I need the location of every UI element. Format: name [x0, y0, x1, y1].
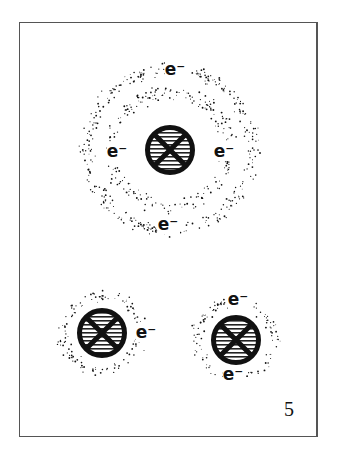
- nucleus: [214, 318, 259, 363]
- atom-diagram: e⁻e⁻e⁻e⁻e⁻e⁻e⁻: [0, 0, 337, 467]
- electron-label: e⁻: [165, 59, 186, 79]
- electron-label: e⁻: [158, 214, 179, 234]
- electron-label: e⁻: [223, 364, 244, 384]
- electron-label: e⁻: [214, 141, 235, 161]
- electron-label: e⁻: [107, 141, 128, 161]
- electron-label: e⁻: [136, 322, 157, 342]
- nucleus: [80, 311, 125, 356]
- nuclei: [80, 128, 259, 363]
- electron-label: e⁻: [228, 289, 249, 309]
- nucleus: [148, 128, 193, 173]
- figure-number: 5: [284, 398, 294, 421]
